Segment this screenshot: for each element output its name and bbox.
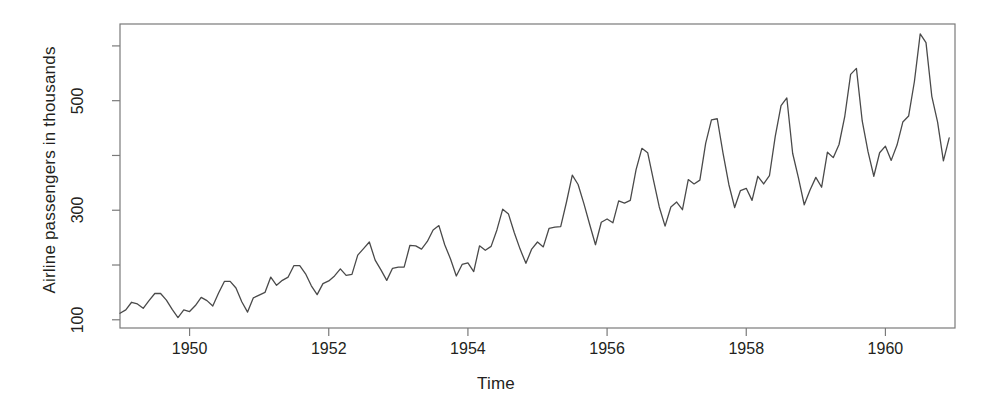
y-tick-label: 100 (69, 298, 87, 342)
y-axis-title-container: Airline passengers in thousands (0, 0, 70, 340)
x-tick-label: 1954 (450, 340, 486, 358)
y-axis-title: Airline passengers in thousands (40, 20, 60, 320)
y-tick-label: 500 (69, 79, 87, 123)
tick-marks (112, 46, 885, 336)
data-series-line (120, 34, 949, 318)
x-tick-label: 1958 (728, 340, 764, 358)
x-tick-label: 1960 (868, 340, 904, 358)
x-axis-title: Time (0, 374, 992, 394)
x-tick-label: 1950 (172, 340, 208, 358)
x-tick-label: 1956 (589, 340, 625, 358)
plot-area (0, 0, 992, 420)
plot-frame (120, 24, 955, 328)
axes-group (120, 24, 955, 328)
chart-figure: Airline passengers in thousands Time 195… (0, 0, 992, 420)
x-tick-label: 1952 (311, 340, 347, 358)
y-tick-label: 300 (69, 188, 87, 232)
